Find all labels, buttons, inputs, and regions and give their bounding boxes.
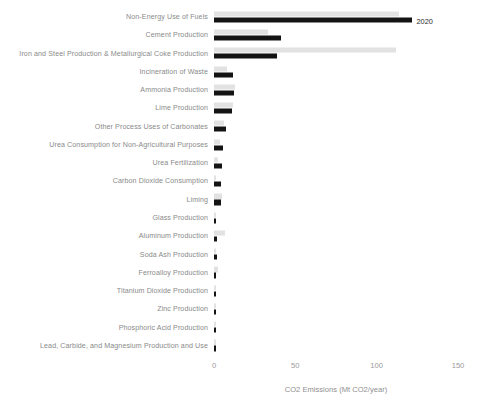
bar-group: Urea Fertilization <box>214 154 458 172</box>
bar-group: Ferroalloy Production <box>214 264 458 282</box>
bar-group: Phosphoric Acid Production <box>214 318 458 336</box>
bar-group: Lead, Carbide, and Magnesium Production … <box>214 337 458 355</box>
y-axis-category-label: Liming <box>187 196 209 204</box>
bar-2020 <box>214 109 232 114</box>
bar-1990 <box>214 267 218 272</box>
bar-2020 <box>214 200 221 205</box>
y-axis-category-label: Iron and Steel Production & Metallurgica… <box>19 50 208 58</box>
bar-2020 <box>214 309 216 314</box>
bar-2020 <box>214 328 216 333</box>
bar-1990 <box>214 194 222 199</box>
y-axis-category-label: Incineration of Waste <box>140 68 208 76</box>
bars-container <box>214 29 458 42</box>
y-axis-category-label: Cement Production <box>146 31 208 39</box>
bar-1990 <box>214 66 227 71</box>
bar-1990 <box>214 322 216 327</box>
bar-group: Zinc Production <box>214 300 458 318</box>
y-axis-category-label: Soda Ash Production <box>140 251 208 259</box>
y-axis-category-label: Carbon Dioxide Consumption <box>113 177 208 185</box>
bar-group: Non-Energy Use of Fuels2020 <box>214 8 458 26</box>
bars-container <box>214 47 458 60</box>
bar-group: Titanium Dioxide Production <box>214 282 458 300</box>
bar-1990 <box>214 340 216 345</box>
bar-1990 <box>214 121 224 126</box>
bar-1990 <box>214 29 268 34</box>
y-axis-category-label: Aluminum Production <box>139 232 208 240</box>
bars-container: 2020 <box>214 11 458 24</box>
y-axis-category-label: Non-Energy Use of Fuels <box>126 13 208 21</box>
bar-group: Glass Production <box>214 209 458 227</box>
bars-container <box>214 102 458 115</box>
x-tick-0: 0 <box>212 361 216 370</box>
bars-container <box>214 120 458 133</box>
bars-container <box>214 321 458 334</box>
bar-group: Iron and Steel Production & Metallurgica… <box>214 45 458 63</box>
bar-2020 <box>214 54 277 59</box>
bars-container <box>214 339 458 352</box>
y-axis-category-label: Ferroalloy Production <box>138 269 208 277</box>
series-annotation-label: 2020 <box>416 17 432 26</box>
bar-2020 <box>214 218 216 223</box>
bar-2020 <box>214 255 217 260</box>
bars-container <box>214 248 458 261</box>
bar-1990 <box>214 230 225 235</box>
bar-1990 <box>214 84 235 89</box>
bars-container <box>214 285 458 298</box>
bar-1990 <box>214 48 396 53</box>
bars-container <box>214 266 458 279</box>
bar-2020 <box>214 90 234 95</box>
y-axis-category-label: Phosphoric Acid Production <box>119 324 208 332</box>
bars-container <box>214 212 458 225</box>
y-axis-category-label: Zinc Production <box>157 305 208 313</box>
co2-emissions-bar-chart: Non-Energy Use of Fuels2020Cement Produc… <box>0 0 481 409</box>
bar-2020 <box>214 346 216 351</box>
bar-2020 <box>214 17 412 22</box>
bars-container <box>214 303 458 316</box>
bar-group: Liming <box>214 191 458 209</box>
x-axis-title: CO2 Emissions (Mt CO2/year) <box>214 385 458 394</box>
y-axis-category-label: Titanium Dioxide Production <box>117 287 208 295</box>
bar-group: Other Process Uses of Carbonates <box>214 118 458 136</box>
y-axis-category-label: Other Process Uses of Carbonates <box>95 123 208 131</box>
y-axis-category-label: Lime Production <box>155 104 208 112</box>
bar-1990 <box>214 285 216 290</box>
bar-1990 <box>214 303 216 308</box>
bar-2020 <box>214 273 216 278</box>
y-axis-category-label: Urea Fertilization <box>153 159 208 167</box>
bar-group: Cement Production <box>214 26 458 44</box>
bar-2020 <box>214 35 281 40</box>
bar-2020 <box>214 127 226 132</box>
bars-container <box>214 175 458 188</box>
bar-group: Carbon Dioxide Consumption <box>214 172 458 190</box>
x-axis: 0 50 100 150 <box>214 357 458 358</box>
y-axis-category-label: Ammonia Production <box>140 86 208 94</box>
bars-container <box>214 157 458 170</box>
bar-1990 <box>214 157 218 162</box>
bar-2020 <box>214 145 223 150</box>
bar-1990 <box>214 139 220 144</box>
bar-1990 <box>214 212 216 217</box>
bars-container <box>214 193 458 206</box>
bar-2020 <box>214 291 216 296</box>
bar-1990 <box>214 249 216 254</box>
x-tick-100: 100 <box>370 361 383 370</box>
bar-group: Soda Ash Production <box>214 245 458 263</box>
bar-1990 <box>214 103 233 108</box>
bars-container <box>214 65 458 78</box>
bar-2020 <box>214 72 233 77</box>
bar-2020 <box>214 163 222 168</box>
bar-1990 <box>214 11 399 16</box>
bar-group: Lime Production <box>214 99 458 117</box>
bar-group: Ammonia Production <box>214 81 458 99</box>
x-tick-150: 150 <box>452 361 465 370</box>
bar-1990 <box>214 176 216 181</box>
y-axis-category-label: Lead, Carbide, and Magnesium Production … <box>40 342 208 350</box>
bar-group: Aluminum Production <box>214 227 458 245</box>
bars-container <box>214 84 458 97</box>
bar-group: Urea Consumption for Non-Agricultural Pu… <box>214 136 458 154</box>
y-axis-category-label: Glass Production <box>152 214 208 222</box>
x-tick-50: 50 <box>291 361 299 370</box>
bar-2020 <box>214 182 221 187</box>
bars-container <box>214 230 458 243</box>
y-axis-category-label: Urea Consumption for Non-Agricultural Pu… <box>49 141 208 149</box>
